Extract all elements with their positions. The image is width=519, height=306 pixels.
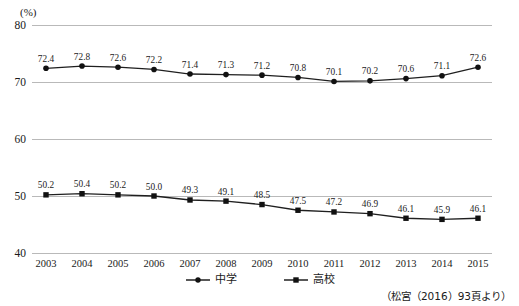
- data-point-label: 72.6: [110, 53, 127, 63]
- data-point[interactable]: [403, 76, 409, 82]
- y-tick-label-40: 40: [15, 247, 27, 259]
- data-point-label: 48.5: [254, 190, 271, 200]
- data-point-label: 72.6: [470, 53, 487, 63]
- data-point-label: 47.2: [326, 197, 343, 207]
- data-point[interactable]: [223, 72, 229, 78]
- data-point-label: 72.2: [146, 55, 163, 65]
- y-tick-label-70: 70: [15, 76, 27, 88]
- data-point[interactable]: [223, 198, 228, 203]
- x-tick-label: 2007: [180, 258, 201, 269]
- x-axis-labels: 2003200420052006200720082009201020112012…: [36, 258, 489, 269]
- data-point-label: 50.2: [110, 180, 127, 190]
- x-tick-label: 2015: [468, 258, 489, 269]
- legend-marker-circle-icon: [185, 275, 211, 285]
- y-tick-label-60: 60: [15, 133, 27, 145]
- y-tick-label-50: 50: [15, 190, 27, 202]
- data-point-label: 70.6: [398, 64, 415, 74]
- data-point[interactable]: [187, 71, 193, 77]
- data-point[interactable]: [259, 202, 264, 207]
- data-point-label: 49.1: [218, 187, 235, 197]
- data-point-label: 49.3: [182, 185, 199, 195]
- data-point[interactable]: [475, 64, 481, 70]
- legend-label-koko: 高校: [313, 274, 335, 285]
- data-point[interactable]: [43, 66, 49, 72]
- chart-plot-area: 80 70 60 50 40 72.472.872.672.271.471.37…: [0, 0, 519, 306]
- x-tick-label: 2005: [108, 258, 129, 269]
- legend-marker-square-icon: [283, 275, 309, 285]
- data-point[interactable]: [331, 209, 336, 214]
- series-koko: 50.250.450.250.049.349.148.547.547.246.9…: [38, 179, 487, 222]
- y-tick-label-80: 80: [15, 19, 27, 31]
- data-point[interactable]: [79, 191, 84, 196]
- data-point-label: 72.4: [38, 54, 55, 64]
- data-point-label: 70.8: [290, 63, 307, 73]
- data-point-label: 72.8: [74, 52, 91, 62]
- x-tick-label: 2014: [432, 258, 454, 269]
- data-point-label: 50.2: [38, 180, 55, 190]
- x-tick-label: 2004: [72, 258, 94, 269]
- data-point-label: 45.9: [434, 205, 451, 215]
- data-point[interactable]: [439, 217, 444, 222]
- data-point-label: 70.2: [362, 66, 379, 76]
- data-point-label: 50.4: [74, 179, 91, 189]
- x-tick-label: 2008: [216, 258, 237, 269]
- data-point-label: 71.1: [434, 61, 451, 71]
- data-point[interactable]: [259, 72, 265, 78]
- data-point[interactable]: [115, 192, 120, 197]
- data-point[interactable]: [403, 216, 408, 221]
- data-point[interactable]: [367, 211, 372, 216]
- x-tick-label: 2010: [288, 258, 309, 269]
- legend-item-koko[interactable]: 高校: [283, 274, 335, 285]
- data-point[interactable]: [331, 79, 337, 85]
- data-point[interactable]: [151, 193, 156, 198]
- y-axis-tick-labels: 80 70 60 50 40: [15, 19, 27, 259]
- data-point-label: 46.1: [398, 204, 415, 214]
- x-tick-label: 2009: [252, 258, 273, 269]
- data-point-label: 50.0: [146, 182, 163, 192]
- x-tick-label: 2012: [360, 258, 381, 269]
- data-point[interactable]: [43, 192, 48, 197]
- data-point[interactable]: [439, 73, 445, 79]
- data-point[interactable]: [115, 64, 121, 70]
- legend-label-chugaku: 中学: [215, 274, 237, 285]
- data-point-label: 71.3: [218, 60, 235, 70]
- data-point[interactable]: [475, 216, 480, 221]
- data-point[interactable]: [295, 208, 300, 213]
- data-point-label: 47.5: [290, 196, 307, 206]
- data-point[interactable]: [295, 75, 301, 81]
- line-chart: (%) 80 70 60 50 40 72.472.872.672.271.47…: [0, 0, 519, 306]
- data-point[interactable]: [151, 67, 157, 73]
- data-point[interactable]: [187, 197, 192, 202]
- chart-legend: 中学 高校: [0, 274, 519, 285]
- data-point[interactable]: [367, 78, 373, 84]
- data-point-label: 70.1: [326, 67, 343, 77]
- data-point[interactable]: [79, 63, 85, 69]
- data-point-label: 46.9: [362, 199, 379, 209]
- x-tick-label: 2003: [36, 258, 57, 269]
- source-attribution: （松宮（2016）93頁より）: [381, 288, 511, 303]
- data-point-label: 71.2: [254, 61, 271, 71]
- data-point-label: 46.1: [470, 204, 487, 214]
- x-tick-label: 2011: [324, 258, 345, 269]
- legend-item-chugaku[interactable]: 中学: [185, 274, 237, 285]
- x-tick-label: 2013: [396, 258, 417, 269]
- data-point-label: 71.4: [182, 60, 199, 70]
- x-tick-label: 2006: [144, 258, 165, 269]
- series-chugaku: 72.472.872.672.271.471.371.270.870.170.2…: [38, 52, 487, 85]
